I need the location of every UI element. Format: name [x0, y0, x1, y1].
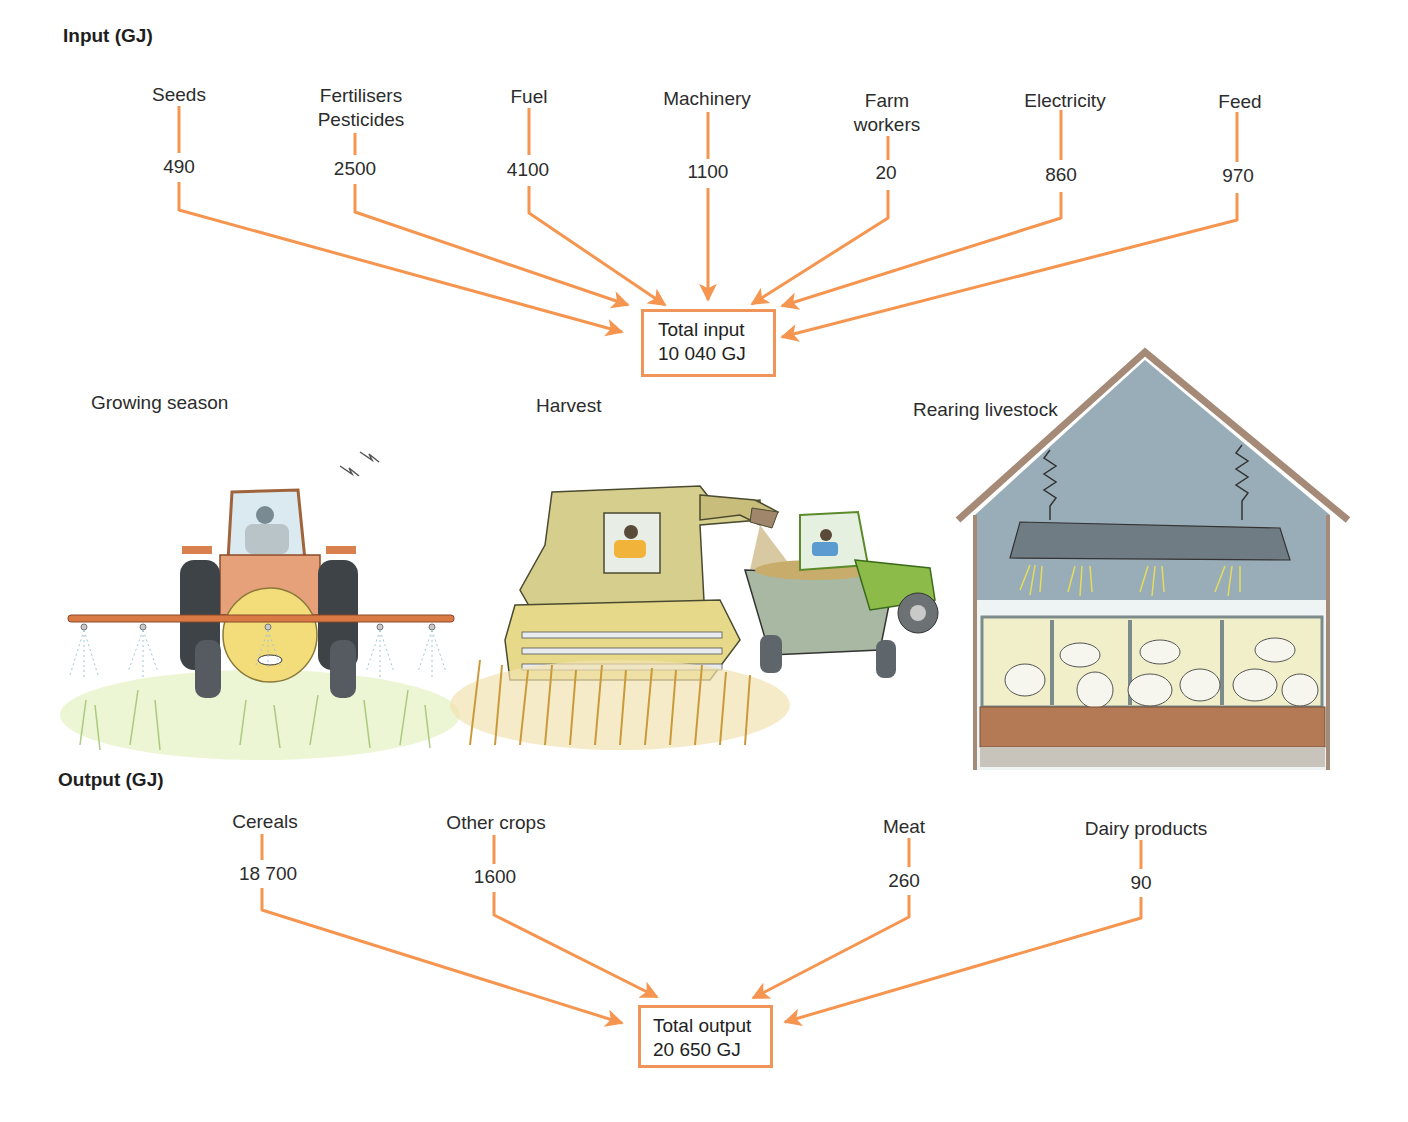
total-output-box: Total output 20 650 GJ [638, 1005, 773, 1068]
illustrations [0, 0, 1408, 1122]
output-value-meat: 260 [888, 870, 920, 892]
output-value-other-crops: 1600 [474, 866, 516, 888]
output-label-other-crops: Other crops [446, 811, 545, 835]
output-value-cereals: 18 700 [239, 863, 297, 885]
output-label-dairy: Dairy products [1085, 817, 1208, 841]
output-value-dairy: 90 [1130, 872, 1151, 894]
output-label-cereals: Cereals [232, 810, 297, 834]
combine-harvester-illustration [450, 486, 938, 750]
total-output-label: Total output [653, 1014, 758, 1038]
total-output-value: 20 650 GJ [653, 1038, 758, 1062]
livestock-barn-illustration [958, 352, 1348, 770]
output-label-meat: Meat [883, 815, 925, 839]
tractor-sprayer-illustration [60, 452, 460, 760]
